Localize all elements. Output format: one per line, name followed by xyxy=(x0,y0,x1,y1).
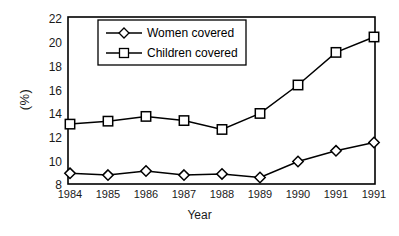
diamond-marker-icon xyxy=(103,170,113,180)
diamond-marker-icon xyxy=(179,170,189,180)
square-marker-icon xyxy=(217,125,226,134)
diamond-marker-icon xyxy=(293,156,303,166)
square-marker-icon xyxy=(120,49,129,58)
square-marker-icon xyxy=(65,119,74,128)
diamond-marker-icon xyxy=(65,168,75,178)
square-marker-icon xyxy=(369,32,378,41)
chart-plot-area: Women covered Children covered xyxy=(0,0,399,236)
square-marker-icon xyxy=(255,109,264,118)
diamond-marker-icon xyxy=(369,137,379,147)
diamond-marker-icon xyxy=(331,146,341,156)
diamond-marker-icon xyxy=(217,169,227,179)
diamond-marker-icon xyxy=(255,172,265,182)
square-marker-icon xyxy=(293,80,302,89)
square-marker-icon xyxy=(179,116,188,125)
square-marker-icon xyxy=(141,112,150,121)
square-marker-icon xyxy=(103,116,112,125)
square-marker-icon xyxy=(331,48,340,57)
chart-container: (%) 22 20 18 16 14 12 10 8 1984 1985 198… xyxy=(0,0,399,236)
legend-label-women: Women covered xyxy=(147,26,234,40)
chart-legend: Women covered Children covered xyxy=(98,20,246,65)
diamond-marker-icon xyxy=(141,166,151,176)
legend-label-children: Children covered xyxy=(147,46,238,60)
